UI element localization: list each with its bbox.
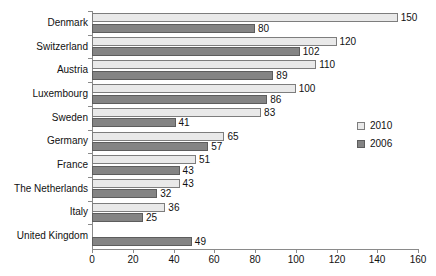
bar-2010 — [92, 203, 165, 212]
bar-2006 — [92, 118, 176, 127]
bar-value-label: 102 — [303, 47, 320, 57]
bar-value-label: 49 — [195, 237, 206, 247]
x-tick-label: 60 — [194, 254, 234, 265]
x-tick-mark — [377, 249, 378, 253]
bar-value-label: 100 — [299, 84, 316, 94]
bar-2006 — [92, 166, 180, 175]
x-tick-mark — [296, 249, 297, 253]
x-tick-mark — [337, 249, 338, 253]
bar-value-label: 32 — [160, 189, 171, 199]
x-tick-mark — [255, 249, 256, 253]
bar-2010 — [92, 155, 196, 164]
category-label: Switzerland — [36, 41, 88, 52]
bar-2006 — [92, 142, 208, 151]
bar-2010 — [92, 37, 337, 46]
x-tick-label: 40 — [154, 254, 194, 265]
bar-value-label: 110 — [319, 60, 335, 70]
bar-2010 — [92, 108, 261, 117]
bar-value-label: 41 — [179, 118, 190, 128]
x-tick-label: 160 — [398, 254, 436, 265]
x-tick-mark — [92, 249, 93, 253]
category-label: Austria — [57, 64, 88, 75]
legend-label-2006: 2006 — [370, 138, 392, 149]
bar-2006 — [92, 24, 255, 33]
x-tick-label: 140 — [357, 254, 397, 265]
x-tick-label: 20 — [113, 254, 153, 265]
x-tick-mark — [418, 249, 419, 253]
x-tick-label: 120 — [317, 254, 357, 265]
bar-2006 — [92, 237, 192, 246]
bar-2006 — [92, 213, 143, 222]
x-tick-mark — [133, 249, 134, 253]
bar-value-label: 80 — [258, 24, 269, 34]
bar-2010 — [92, 179, 180, 188]
bar-2006 — [92, 189, 157, 198]
bar-value-label: 57 — [211, 142, 222, 152]
bar-2010 — [92, 13, 398, 22]
bar-value-label: 43 — [183, 166, 194, 176]
x-tick-label: 100 — [276, 254, 316, 265]
bar-value-label: 51 — [199, 155, 210, 165]
category-label: Germany — [47, 135, 88, 146]
bar-2006 — [92, 95, 267, 104]
bar-chart: DenmarkSwitzerlandAustriaLuxembourgSwede… — [0, 0, 436, 276]
bar-2010 — [92, 84, 296, 93]
x-tick-label: 0 — [72, 254, 112, 265]
legend-item-2010: 2010 — [357, 119, 392, 132]
category-label: Luxembourg — [32, 88, 88, 99]
bar-2006 — [92, 71, 273, 80]
category-label: Italy — [70, 206, 88, 217]
x-tick-mark — [174, 249, 175, 253]
legend-swatch-2006-icon — [357, 140, 365, 148]
bar-value-label: 36 — [168, 203, 179, 213]
bar-value-label: 83 — [264, 108, 275, 118]
bar-value-label: 65 — [227, 132, 238, 142]
category-label: The Netherlands — [14, 183, 88, 194]
bar-value-label: 25 — [146, 213, 157, 223]
bar-value-label: 89 — [276, 71, 287, 81]
category-label: France — [57, 159, 88, 170]
bar-value-label: 86 — [270, 95, 281, 105]
bar-2010 — [92, 132, 224, 141]
legend-item-2006: 2006 — [357, 137, 392, 150]
bar-value-label: 150 — [401, 13, 418, 23]
legend-label-2010: 2010 — [370, 120, 392, 131]
bar-2010 — [92, 60, 316, 69]
bar-value-label: 43 — [183, 179, 194, 189]
bar-2006 — [92, 47, 300, 56]
chart-legend: 2010 2006 — [357, 119, 392, 155]
category-label: Sweden — [52, 112, 88, 123]
legend-swatch-2010-icon — [357, 122, 365, 130]
bar-value-label: 120 — [340, 37, 357, 47]
category-label: Denmark — [47, 17, 88, 28]
category-label: United Kingdom — [17, 230, 88, 241]
x-tick-label: 80 — [235, 254, 275, 265]
x-tick-mark — [214, 249, 215, 253]
